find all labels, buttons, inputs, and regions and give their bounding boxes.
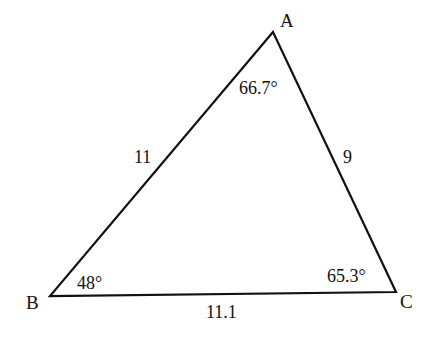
vertex-label-b: B [26, 292, 39, 313]
side-label-bc: 11.1 [206, 302, 237, 322]
vertex-label-a: A [280, 10, 294, 31]
side-label-ac: 9 [343, 147, 352, 167]
side-label-ab: 11 [134, 147, 151, 167]
angle-label-b: 48° [77, 273, 102, 293]
triangle-diagram: A B C 11 9 11.1 66.7° 48° 65.3° [0, 0, 448, 337]
angle-label-c: 65.3° [327, 266, 366, 286]
angle-label-a: 66.7° [239, 78, 278, 98]
vertex-label-c: C [400, 291, 413, 312]
